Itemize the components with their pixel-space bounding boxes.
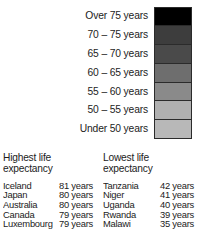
legend-label: Over 75 years (0, 7, 154, 26)
highest-table-rows: Iceland81 yearsJapan80 yearsAustralia80 … (3, 181, 99, 229)
legend-label: 50 – 55 years (0, 101, 154, 120)
legend-color-swatch (154, 45, 192, 64)
table-row: Malawi35 years (103, 219, 198, 229)
legend-color-swatch (154, 101, 192, 120)
legend-label: 65 – 70 years (0, 45, 154, 64)
legend-color-swatch (154, 120, 192, 139)
country-name: Canada (3, 210, 59, 220)
country-name: Rwanda (103, 210, 160, 220)
legend-row: 60 – 65 years (0, 64, 198, 83)
country-name: Iceland (3, 181, 59, 191)
life-expectancy-value: 79 years (59, 219, 93, 229)
legend-color-swatch (154, 7, 192, 26)
country-name: Uganda (103, 200, 160, 210)
country-name: Tanzania (103, 181, 160, 191)
legend-color-swatch (154, 83, 192, 102)
legend-label: Under 50 years (0, 120, 154, 139)
country-name: Niger (103, 190, 160, 200)
legend-row: 65 – 70 years (0, 45, 198, 64)
life-expectancy-value: 35 years (160, 219, 194, 229)
legend-row: Under 50 years (0, 120, 198, 139)
legend-label: 70 – 75 years (0, 26, 154, 45)
table-row: Luxembourg79 years (3, 219, 99, 229)
legend-row: 50 – 55 years (0, 101, 198, 120)
country-name: Malawi (103, 219, 160, 229)
legend-row: 70 – 75 years (0, 26, 198, 45)
country-name: Japan (3, 190, 59, 200)
highest-life-expectancy-table: Highest life expectancy Iceland81 yearsJ… (0, 152, 99, 229)
country-name: Luxembourg (3, 219, 59, 229)
lowest-life-expectancy-table: Lowest life expectancy Tanzania42 yearsN… (99, 152, 198, 229)
life-expectancy-legend: Over 75 years70 – 75 years65 – 70 years6… (0, 7, 198, 139)
legend-color-swatch (154, 26, 192, 45)
legend-color-swatch (154, 64, 192, 83)
country-name: Australia (3, 200, 59, 210)
country-tables: Highest life expectancy Iceland81 yearsJ… (0, 152, 198, 229)
lowest-table-title: Lowest life expectancy (103, 152, 198, 175)
lowest-table-rows: Tanzania42 yearsNiger41 yearsUganda40 ye… (103, 181, 198, 229)
legend-label: 55 – 60 years (0, 83, 154, 102)
legend-row: Over 75 years (0, 7, 198, 26)
legend-label: 60 – 65 years (0, 64, 154, 83)
highest-table-title: Highest life expectancy (3, 152, 99, 175)
legend-row: 55 – 60 years (0, 83, 198, 102)
